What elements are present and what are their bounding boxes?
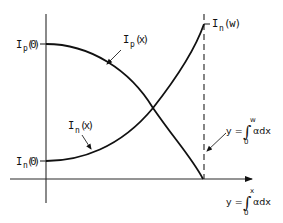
svg-text:(x): (x) bbox=[135, 33, 149, 45]
label-inw: I n (w) bbox=[212, 17, 241, 33]
label-in0: I n (0) bbox=[16, 155, 40, 170]
svg-text:(0): (0) bbox=[27, 38, 40, 50]
inx-leader-arrow bbox=[82, 135, 91, 149]
diagram-canvas: I p (0) I n (0) I p (x) I n (x) I n (w) … bbox=[0, 0, 283, 223]
eqw-leader-arrow bbox=[207, 133, 226, 151]
svg-text:I: I bbox=[212, 17, 218, 29]
svg-text:y =: y = bbox=[226, 125, 243, 136]
svg-text:I: I bbox=[16, 155, 22, 167]
svg-text:I: I bbox=[68, 119, 74, 131]
svg-text:I: I bbox=[16, 38, 22, 50]
diagram: I p (0) I n (0) I p (x) I n (x) I n (w) … bbox=[0, 0, 283, 223]
equation-integral-x: y = ∫ x 0 αdx bbox=[226, 187, 271, 217]
svg-text:y =: y = bbox=[226, 196, 243, 207]
label-ip0: I p (0) bbox=[16, 38, 40, 53]
svg-text:αdx: αdx bbox=[253, 125, 271, 136]
svg-text:0: 0 bbox=[244, 209, 248, 217]
label-ipx: I p (x) bbox=[123, 33, 149, 49]
svg-text:w: w bbox=[250, 116, 256, 124]
svg-text:(0): (0) bbox=[27, 155, 40, 167]
equation-integral-w: y = ∫ w 0 αdx bbox=[226, 116, 271, 146]
svg-text:(w): (w) bbox=[224, 17, 241, 29]
label-inx: I n (x) bbox=[68, 119, 94, 135]
svg-text:I: I bbox=[123, 33, 129, 45]
svg-text:αdx: αdx bbox=[253, 196, 271, 207]
svg-text:(x): (x) bbox=[80, 119, 94, 131]
ipx-leader-arrow bbox=[107, 50, 121, 64]
svg-text:x: x bbox=[250, 187, 254, 195]
svg-text:0: 0 bbox=[244, 138, 248, 146]
